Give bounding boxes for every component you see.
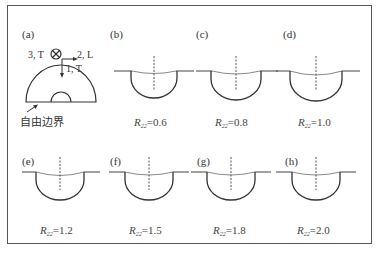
panel-c-ratio: R22=0.8 (215, 116, 248, 129)
panel-c-label: (c) (196, 28, 208, 40)
panel-e-label: (e) (22, 155, 34, 167)
panel-f-ratio: R22=1.5 (129, 224, 162, 237)
panel-e-ratio: R22=1.2 (40, 224, 73, 237)
panel-f-shape (109, 157, 189, 200)
inner-hole (51, 92, 71, 102)
panel-h-ratio: R22=2.0 (297, 224, 330, 237)
panel-c-shape (196, 56, 278, 100)
panel-g-ratio: R22=1.8 (213, 224, 246, 237)
panel-g-label: (g) (197, 155, 210, 167)
panel-d-label: (d) (283, 28, 296, 40)
panel-d-shape (276, 56, 360, 101)
panel-f-label: (f) (110, 155, 121, 167)
panel-b-ratio: R22=0.6 (134, 116, 167, 129)
panel-h-label: (h) (285, 155, 298, 167)
panel-d-ratio: R22=1.0 (298, 116, 331, 129)
arrow-down-icon (60, 73, 64, 78)
pointer-arrow-icon (33, 105, 38, 110)
panel-b-label: (b) (110, 28, 123, 40)
semicircle-domain (26, 65, 96, 102)
panel-b-shape (114, 56, 194, 98)
arrow-right-icon (73, 57, 78, 61)
